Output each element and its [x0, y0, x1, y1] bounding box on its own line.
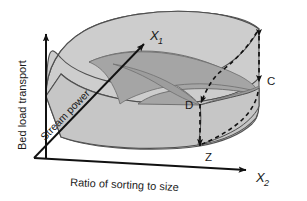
point-label-c: C: [267, 75, 275, 87]
x-axis-label: Ratio of sorting to size: [70, 176, 179, 193]
y-axis-label: Bed load transport: [16, 60, 28, 150]
cusp-surface-diagram: Bed load transport Ratio of sorting to s…: [0, 0, 307, 201]
point-label-d: D: [185, 99, 193, 111]
x-axis-variable-group: X 2: [255, 170, 269, 188]
figure-container: Bed load transport Ratio of sorting to s…: [0, 0, 307, 201]
x-axis-variable-subscript: 2: [263, 178, 269, 188]
depth-axis-variable-subscript: 1: [158, 36, 163, 46]
point-label-z: Z: [205, 151, 212, 163]
x-axis-line: [34, 158, 246, 170]
